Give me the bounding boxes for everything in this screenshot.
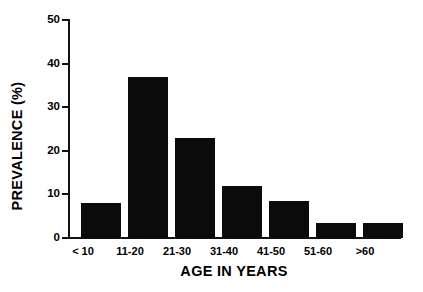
- x-tick-label-31-40: 31-40: [202, 245, 246, 257]
- bar-21-30: [175, 138, 215, 238]
- x-tick-label-21-30: 21-30: [155, 245, 199, 257]
- y-tick-label-10: 10: [32, 189, 60, 201]
- x-axis-title: AGE IN YEARS: [68, 263, 400, 279]
- y-tick-label-30: 30: [32, 101, 60, 113]
- x-tick-label-51-60: 51-60: [296, 245, 340, 257]
- y-tick-label-50: 50: [32, 14, 60, 26]
- x-tick-label-11-20: 11-20: [108, 245, 152, 257]
- bar-41-50: [269, 201, 309, 238]
- bar-chart-figure: PREVALENCE (%) 0 10 20 30 40 50 < 10 11-…: [0, 0, 423, 292]
- bar-51-60: [316, 223, 356, 238]
- y-axis-tick-labels: 0 10 20 30 40 50: [30, 0, 60, 292]
- bar-gt-60: [363, 223, 403, 238]
- x-tick-label-lt-10: < 10: [61, 245, 105, 257]
- x-tick-label-41-50: 41-50: [249, 245, 293, 257]
- y-tick-label-40: 40: [32, 58, 60, 70]
- plot-area: [68, 20, 400, 238]
- bar-lt-10: [81, 203, 121, 238]
- bar-31-40: [222, 186, 262, 238]
- y-tick-label-0: 0: [32, 232, 60, 244]
- y-tick-label-20: 20: [32, 145, 60, 157]
- bar-11-20: [128, 77, 168, 238]
- y-axis-title: PREVALENCE (%): [0, 0, 34, 292]
- x-tick-label-gt-60: >60: [343, 245, 387, 257]
